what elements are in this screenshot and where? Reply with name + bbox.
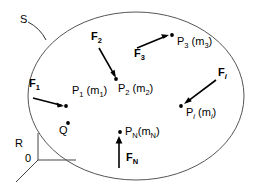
particle-label-PN: PN(mN) [125,126,160,137]
force-arrow-F3 [137,34,169,48]
force-arrow-Fi [184,80,216,104]
particle-label-P3: P3 (m3) [177,36,212,47]
particle-dot-P2 [114,77,118,81]
force-label-F3: F3 [134,48,145,59]
force-arrow-FN [116,136,123,168]
boundary-leader-line [28,22,46,40]
force-label-FN: FN [126,152,138,163]
frame-origin-label: 0 [25,153,31,164]
particle-label-P2: P2 (m2) [118,83,153,94]
boundary-label-S: S [20,14,27,25]
diagram-canvas [0,0,260,194]
particle-label-Pi: Pi (mi) [186,107,216,118]
force-label-Fi: Fi [218,67,227,78]
force-arrow-F1 [33,98,64,108]
force-arrow-F2 [99,48,116,78]
force-label-F1: F1 [29,78,40,89]
point-label-Q: Q [59,125,68,136]
particle-label-P1: P1 (m1) [72,85,107,96]
force-arrows [33,34,216,168]
force-label-F2: F2 [91,31,102,42]
frame-label-R: R [15,138,23,149]
particle-dot-P1 [64,104,68,108]
mechanics-diagram: S R 0 F1 F2 F3 Fi FN P1 (m1) P2 (m2) P3 … [0,0,260,194]
particle-dot-PN [118,130,122,134]
particle-dot-Pi [179,104,183,108]
particle-dot-P3 [170,33,174,37]
